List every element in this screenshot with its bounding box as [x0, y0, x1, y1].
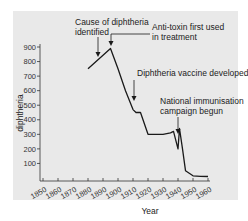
y-tick-label: 300: [23, 130, 36, 139]
annotation-immunisation-line1: National immunisation: [160, 96, 244, 106]
x-tick-label: 1960: [194, 185, 213, 201]
arrow-down-icon: [132, 96, 137, 101]
annotation-antitoxin-line2: in treatment: [152, 32, 198, 42]
y-axis-label: diphtheria: [15, 94, 25, 132]
y-tick-label: 600: [23, 86, 36, 95]
y-tick-label: 700: [23, 72, 36, 81]
y-tick-label: 500: [23, 101, 36, 110]
y-axis-ticks: 100200300400500600700800900: [23, 43, 40, 168]
arrow-down-icon: [96, 52, 101, 57]
annotation-cause-identified-line2: identified: [75, 27, 109, 37]
annotation-vaccine-developed: Diphtheria vaccine developed: [137, 68, 248, 78]
annotation-antitoxin-line1: Anti-toxin first used: [152, 22, 225, 32]
y-tick-label: 100: [23, 159, 36, 168]
x-axis-ticks: 1850186018701880189019001910192019301940…: [29, 178, 213, 201]
y-tick-label: 400: [23, 115, 36, 124]
annotation-2-pointer: [111, 34, 150, 43]
y-tick-label: 200: [23, 145, 36, 154]
arrow-down-icon: [109, 41, 114, 46]
y-tick-label: 900: [23, 43, 36, 52]
annotation-cause-identified-line1: Cause of diphtheria: [75, 17, 149, 27]
x-axis-label: Year: [141, 206, 158, 216]
annotation-immunisation-line2: campaign begun: [160, 106, 223, 116]
line-chart: 100200300400500600700800900 185018601870…: [0, 0, 248, 221]
y-tick-label: 800: [23, 57, 36, 66]
